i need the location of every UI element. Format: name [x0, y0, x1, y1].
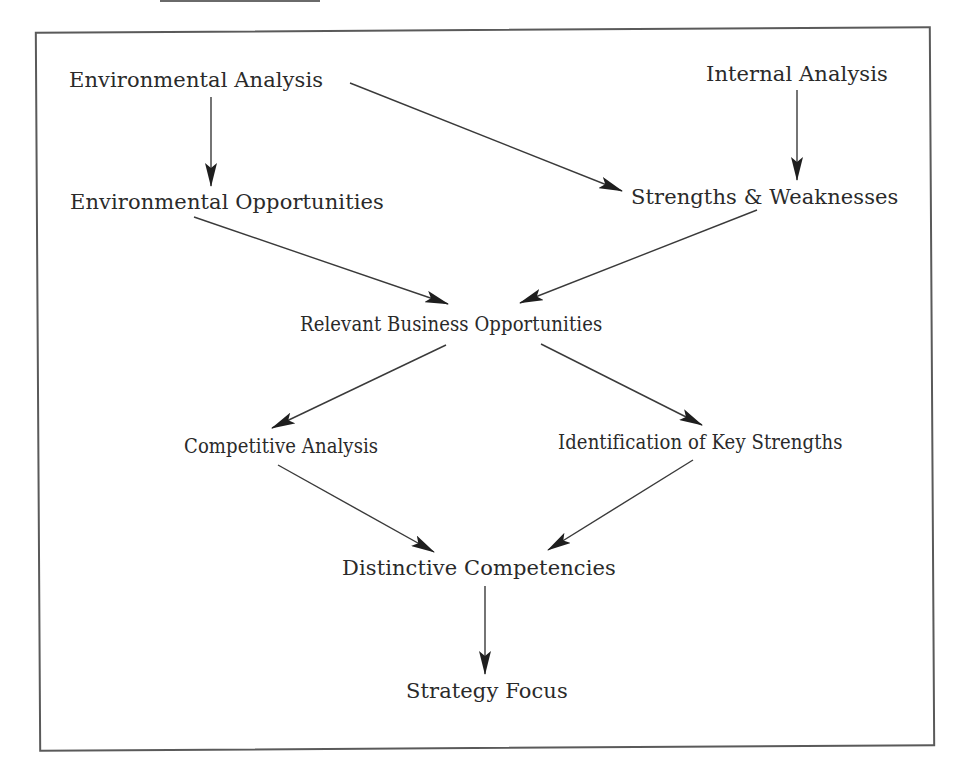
edge-relevant-opps-to-competitive-analysis	[272, 345, 446, 428]
node-strengths-weaknesses: Strengths & Weaknesses	[631, 187, 899, 208]
node-relevant-business-opportunities: Relevant Business Opportunities	[300, 314, 602, 335]
edge-env-analysis-to-strengths-weaknesses	[350, 83, 622, 191]
node-environmental-analysis: Environmental Analysis	[69, 70, 323, 91]
edge-key-strengths-to-distinctive-competencies	[548, 460, 693, 550]
node-environmental-opportunities: Environmental Opportunities	[70, 192, 384, 213]
edges-layer	[0, 0, 971, 779]
node-internal-analysis: Internal Analysis	[706, 64, 888, 85]
node-strategy-focus: Strategy Focus	[406, 681, 568, 702]
node-distinctive-competencies: Distinctive Competencies	[342, 558, 616, 579]
edge-competitive-analysis-to-distinctive-competencies	[278, 465, 434, 552]
edge-strengths-weaknesses-to-relevant-opps	[520, 210, 757, 303]
node-identification-of-key-strengths: Identification of Key Strengths	[558, 432, 843, 453]
edge-relevant-opps-to-key-strengths	[541, 344, 702, 425]
edge-env-opportunities-to-relevant-opps	[194, 217, 448, 304]
node-competitive-analysis: Competitive Analysis	[184, 436, 378, 457]
